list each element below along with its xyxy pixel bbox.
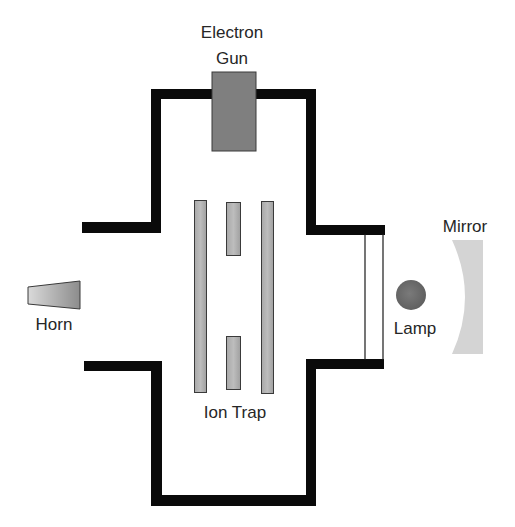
chamber-wall-lower-left — [151, 361, 162, 506]
optical-window — [365, 234, 383, 360]
ion-trap — [195, 201, 274, 394]
chamber-wall-left-arm-bottom — [84, 361, 162, 371]
ion-trap-segment-bottom — [227, 337, 241, 390]
chamber-wall-bottom — [151, 495, 316, 506]
vacuum-chamber — [82, 89, 385, 506]
electron-gun-label-line1: Electron — [201, 23, 263, 42]
mirror — [452, 240, 483, 354]
chamber-wall-upper-right — [306, 89, 316, 235]
horn — [28, 281, 80, 309]
mirror-label: Mirror — [443, 217, 488, 236]
chamber-wall-right-arm-top — [306, 225, 385, 235]
ion-trap-outer-rod-right — [262, 202, 274, 394]
ion-trap-outer-rod-left — [195, 201, 207, 393]
ion-trap-apparatus-diagram: Electron Gun Horn Ion Trap Lamp Mirror — [0, 0, 515, 527]
lamp — [396, 280, 426, 310]
horn-label: Horn — [36, 315, 73, 334]
chamber-wall-right-arm-bottom — [306, 359, 384, 369]
electron-gun — [212, 72, 256, 151]
electron-gun-label-line2: Gun — [216, 49, 248, 68]
ion-trap-label: Ion Trap — [204, 403, 266, 422]
chamber-wall-upper-left — [151, 89, 161, 233]
ion-trap-segment-top — [227, 203, 241, 256]
lamp-label: Lamp — [394, 319, 437, 338]
chamber-wall-left-arm-top — [82, 222, 161, 233]
chamber-wall-lower-right — [306, 359, 316, 506]
